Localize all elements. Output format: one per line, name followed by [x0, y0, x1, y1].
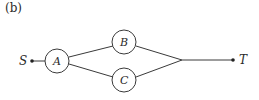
terminal-t-dot	[231, 58, 235, 62]
node-c-label: C	[120, 74, 129, 87]
edge-a-c	[69, 64, 113, 77]
edge-a-b	[69, 46, 113, 57]
edge-c-junction	[136, 60, 182, 77]
node-t-label: T	[239, 53, 248, 67]
node-a-label: A	[52, 55, 61, 68]
node-s-label: S	[19, 54, 27, 68]
edge-b-junction	[136, 46, 182, 60]
reliability-network-diagram: S A B C T	[0, 0, 259, 100]
terminal-s-dot	[30, 59, 34, 63]
node-b-label: B	[119, 36, 128, 49]
